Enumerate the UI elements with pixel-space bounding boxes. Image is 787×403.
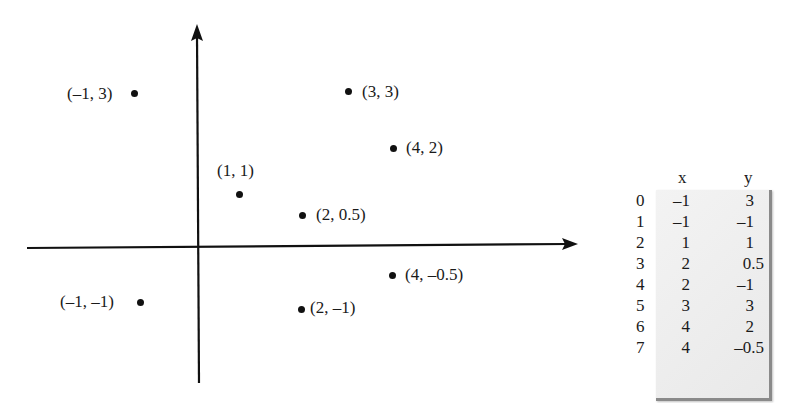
x-axis [27,244,568,248]
cell-y: 3 [710,190,754,211]
table-row: 3 2 0.5 [630,253,780,274]
row-index: 2 [636,232,650,253]
table-row: 4 2 –1 [630,274,780,295]
y-axis [197,34,199,383]
point-label: (4, 2) [406,138,443,158]
row-index: 7 [636,337,650,358]
cell-x: 2 [658,274,690,295]
cell-y: –1 [710,211,754,232]
row-index: 3 [636,253,650,274]
row-index: 6 [636,316,650,337]
table-row: 2 1 1 [630,232,780,253]
table-row: 7 4 –0.5 [630,337,780,358]
cell-y: 0.5 [720,253,764,274]
data-point [137,299,144,306]
cell-x: –1 [658,190,690,211]
point-label: (3, 3) [362,82,399,102]
column-header-x: x [678,168,687,188]
cell-y: –0.5 [720,337,764,358]
table-row: 5 3 3 [630,295,780,316]
cell-x: 3 [658,295,690,316]
data-point [390,145,397,152]
point-label: (4, –0.5) [405,265,463,285]
cell-x: 2 [658,253,690,274]
scatter-plot: (–1, 3) (3, 3) (4, 2) (1, 1) (2, 0.5) (4… [0,0,600,403]
row-index: 1 [636,211,650,232]
cell-x: 1 [658,232,690,253]
data-point [236,191,243,198]
cell-x: 4 [658,316,690,337]
row-index: 5 [636,295,650,316]
data-point [131,90,138,97]
data-point [299,212,306,219]
cell-y: 3 [710,295,754,316]
data-table: x y 0 –1 3 1 –1 –1 2 1 1 3 2 0.5 4 2 –1 … [630,168,780,388]
data-point [389,272,396,279]
point-label: (–1, –1) [60,292,114,312]
data-point [298,306,305,313]
axes-svg [0,0,600,403]
table-row: 0 –1 3 [630,190,780,211]
point-label: (2, –1) [310,298,355,318]
data-point [345,88,352,95]
row-index: 0 [636,190,650,211]
table-row: 1 –1 –1 [630,211,780,232]
point-label: (2, 0.5) [316,205,366,225]
cell-x: –1 [658,211,690,232]
column-header-y: y [744,168,753,188]
cell-y: 2 [710,316,754,337]
table-row: 6 4 2 [630,316,780,337]
point-label: (1, 1) [217,161,254,181]
row-index: 4 [636,274,650,295]
cell-y: –1 [710,274,754,295]
point-label: (–1, 3) [67,84,112,104]
cell-x: 4 [658,337,690,358]
cell-y: 1 [710,232,754,253]
